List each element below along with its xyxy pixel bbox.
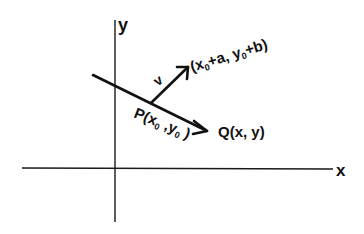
vector-tip-label: (x0+a, y0+b) — [188, 35, 270, 77]
vector-label: v — [150, 71, 166, 89]
diagram-canvas: x y v (x0+a, y0+b) P(x0 ,y0 ) Q(x, y) — [0, 0, 364, 234]
y-axis-label: y — [118, 15, 128, 35]
x-axis-label: x — [336, 161, 346, 180]
x-axis — [22, 168, 333, 169]
point-q-label: Q(x, y) — [218, 123, 265, 140]
